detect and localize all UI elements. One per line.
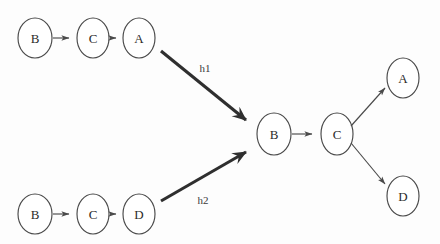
node-label: A bbox=[398, 71, 408, 86]
diagram-canvas: B C A B C bbox=[0, 0, 440, 244]
node-label: D bbox=[398, 189, 407, 204]
node-label: B bbox=[270, 127, 279, 142]
node-result-b[interactable]: B bbox=[257, 113, 291, 155]
node-bottom-d[interactable]: D bbox=[123, 194, 155, 234]
edge-result-c-to-a bbox=[351, 88, 385, 126]
node-label: A bbox=[134, 31, 144, 46]
node-result-c[interactable]: C bbox=[321, 113, 353, 155]
node-label: C bbox=[333, 127, 342, 142]
node-label: B bbox=[31, 31, 40, 46]
mapping-h1-label: h1 bbox=[200, 62, 211, 74]
node-top-c[interactable]: C bbox=[77, 18, 109, 58]
node-label: D bbox=[134, 207, 143, 222]
node-label: C bbox=[89, 31, 98, 46]
diagram-svg: B C A B C bbox=[0, 0, 440, 244]
node-label: B bbox=[31, 207, 40, 222]
top-source-graph: B C A bbox=[18, 18, 155, 58]
node-top-a[interactable]: A bbox=[123, 18, 155, 58]
node-result-a[interactable]: A bbox=[387, 58, 419, 98]
mapping-h1: h1 bbox=[161, 51, 246, 120]
node-result-d[interactable]: D bbox=[387, 176, 419, 216]
node-label: C bbox=[89, 207, 98, 222]
node-bottom-c[interactable]: C bbox=[77, 194, 109, 234]
merged-result-graph: B C A D bbox=[257, 58, 419, 216]
edge-result-c-to-d bbox=[351, 143, 385, 184]
node-bottom-b[interactable]: B bbox=[18, 194, 52, 234]
mapping-h2-label: h2 bbox=[198, 194, 209, 206]
bottom-source-graph: B C D bbox=[18, 194, 155, 234]
mapping-h2: h2 bbox=[161, 152, 246, 206]
node-top-b[interactable]: B bbox=[18, 18, 52, 58]
